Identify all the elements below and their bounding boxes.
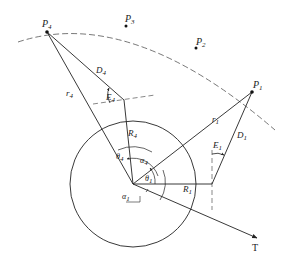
label-T: T	[252, 242, 258, 253]
label-p4: rP4	[41, 18, 52, 31]
positioning-diagram: rP4 P3 P2 P1 D4 r4 E4 R4 r1 D1 E1 R1 θ4 …	[0, 0, 293, 263]
label-theta1: θ1	[145, 174, 152, 185]
label-alpha4: α4	[140, 156, 148, 167]
point-p1	[250, 90, 254, 94]
label-r1: r1	[212, 114, 219, 126]
label-e1: E1	[212, 140, 222, 152]
label-d4: D4	[95, 65, 107, 77]
label-R1: R1	[182, 184, 192, 196]
label-p3: P3	[124, 13, 135, 26]
angle-arc-theta4	[118, 147, 152, 152]
label-theta4: θ4	[116, 152, 124, 163]
label-R4: R4	[127, 128, 138, 140]
line-T	[133, 184, 257, 238]
line-r1	[133, 92, 252, 184]
label-alpha1: α1	[122, 192, 130, 203]
point-p3	[125, 25, 128, 28]
label-p1: P1	[252, 79, 263, 92]
label-r4: r4	[66, 88, 74, 100]
line-d4	[47, 32, 124, 100]
label-d1: D1	[236, 130, 247, 142]
e1-arrow	[212, 153, 224, 155]
label-e4: E4	[105, 92, 116, 104]
line-R4	[124, 100, 133, 184]
angle-arc-outer	[160, 170, 165, 200]
